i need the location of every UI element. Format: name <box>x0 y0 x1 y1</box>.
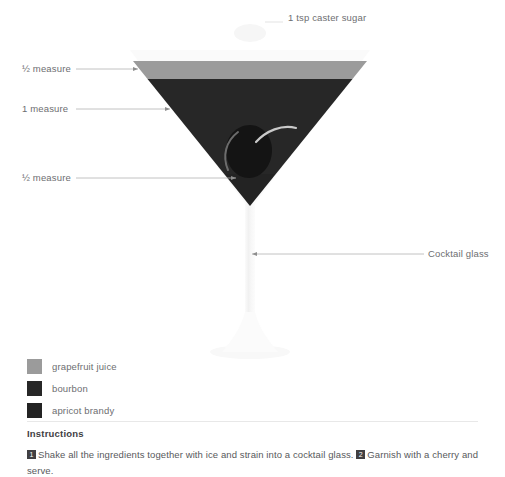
arrowhead-measure-1 <box>133 67 138 71</box>
legend-label-apricot-brandy: apricot brandy <box>52 405 114 416</box>
callout-caster-sugar: 1 tsp caster sugar <box>288 12 366 23</box>
glass-base-curve <box>222 312 278 352</box>
callout-cocktail-glass: Cocktail glass <box>428 248 489 259</box>
instructions-body: 1Shake all the ingredients together with… <box>27 447 482 477</box>
step-badge-2: 2 <box>356 450 365 459</box>
arrowhead-measure-2 <box>165 107 170 111</box>
sugar-rim <box>234 24 266 42</box>
callout-measure-grapefruit: ½ measure <box>22 63 71 74</box>
layer-grapefruit-juice <box>120 61 390 79</box>
step-badge-1: 1 <box>27 450 36 459</box>
cocktail-diagram: 1 tsp caster sugar ½ measure 1 measure ½… <box>0 0 505 477</box>
legend-swatch-apricot-brandy <box>27 403 42 418</box>
legend-item-grapefruit-juice: grapefruit juice <box>27 356 217 376</box>
legend-swatch-grapefruit-juice <box>27 359 42 374</box>
step-text-1: Shake all the ingredients together with … <box>38 449 354 460</box>
callout-measure-apricot: ½ measure <box>22 172 71 183</box>
legend-item-apricot-brandy: apricot brandy <box>27 400 217 420</box>
legend-label-bourbon: bourbon <box>52 383 88 394</box>
legend-item-bourbon: bourbon <box>27 378 217 398</box>
legend-swatch-bourbon <box>27 381 42 396</box>
instructions-title: Instructions <box>27 428 482 439</box>
ingredient-legend: grapefruit juice bourbon apricot brandy <box>27 356 217 422</box>
callout-measure-bourbon: 1 measure <box>22 103 68 114</box>
legend-label-grapefruit-juice: grapefruit juice <box>52 361 117 372</box>
instructions-divider <box>27 421 478 422</box>
instructions-section: Instructions 1Shake all the ingredients … <box>27 428 482 477</box>
